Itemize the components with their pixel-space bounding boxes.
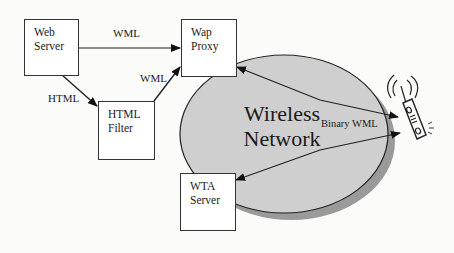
- mobile-phone-icon: [388, 75, 434, 139]
- web-server-label: Web Server: [34, 25, 64, 53]
- html-filter-label: HTML Filter: [108, 107, 141, 135]
- edge-label-web-to-proxy: WML: [113, 27, 140, 39]
- edge-label-web-to-filter: HTML: [48, 92, 79, 104]
- html-filter-box: HTML Filter: [98, 101, 155, 160]
- edge-label-binary-wml: Binary WML: [321, 118, 378, 129]
- wap-proxy-box: Wap Proxy: [181, 19, 237, 77]
- wta-server-label: WTA Server: [190, 179, 220, 207]
- wap-proxy-label: Wap Proxy: [191, 25, 218, 53]
- edge-label-filter-to-proxy: WML: [140, 72, 167, 84]
- wta-server-box: WTA Server: [180, 173, 236, 231]
- web-server-box: Web Server: [24, 19, 79, 76]
